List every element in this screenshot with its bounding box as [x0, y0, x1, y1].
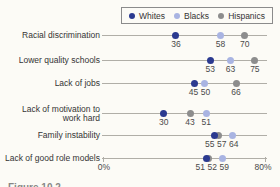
data-dot-blacks — [229, 132, 236, 139]
value-label-whites: 51 — [196, 162, 205, 172]
value-label-whites: 53 — [206, 64, 215, 74]
legend-item-whites: Whites — [129, 11, 165, 21]
value-label-whites: 45 — [189, 87, 198, 97]
hispanics-dot-icon — [218, 13, 224, 19]
data-dot-whites — [207, 57, 214, 64]
value-label-hispanics: 70 — [240, 39, 249, 49]
value-label-blacks: 63 — [226, 64, 235, 74]
legend-item-blacks: Blacks — [174, 11, 209, 21]
legend-label-hispanics: Hispanics — [228, 11, 265, 21]
data-dot-whites — [191, 80, 198, 87]
category-line — [102, 83, 267, 84]
value-label-blacks: 59 — [220, 162, 229, 172]
category-label-line: Lack of good role models — [5, 154, 100, 164]
data-dot-whites — [172, 32, 179, 39]
category-label: Racial discrimination — [22, 31, 100, 41]
x-axis-max-label: 80% — [254, 162, 271, 172]
data-dot-hispanics — [251, 57, 258, 64]
category-line — [102, 158, 267, 159]
value-label-hispanics: 52 — [208, 162, 217, 172]
data-dot-blacks — [219, 155, 226, 162]
value-label-hispanics: 57 — [217, 139, 226, 149]
category-label-line: Racial discrimination — [22, 31, 100, 41]
category-label-line: Lower quality schools — [19, 56, 100, 66]
category-label: Lack of good role models — [5, 154, 100, 164]
data-dot-whites — [203, 155, 210, 162]
value-label-hispanics: 43 — [185, 117, 194, 127]
x-axis-min-label: 0% — [98, 162, 110, 172]
data-dot-hispanics — [241, 32, 248, 39]
figure-caption: Figure 10.2 — [8, 182, 61, 187]
value-label-hispanics: 66 — [231, 87, 240, 97]
data-dot-whites — [160, 110, 167, 117]
category-line — [102, 135, 267, 136]
value-label-whites: 36 — [171, 39, 180, 49]
data-dot-hispanics — [187, 110, 194, 117]
data-dot-whites — [211, 132, 218, 139]
whites-dot-icon — [129, 13, 135, 19]
blacks-dot-icon — [174, 13, 180, 19]
value-label-hispanics: 75 — [250, 64, 259, 74]
category-label: Lower quality schools — [19, 56, 100, 66]
value-label-blacks: 51 — [202, 117, 211, 127]
data-dot-blacks — [203, 110, 210, 117]
category-label-line: Lack of jobs — [55, 79, 100, 89]
category-label: Lack of jobs — [55, 79, 100, 89]
legend-item-hispanics: Hispanics — [218, 11, 265, 21]
value-label-whites: 55 — [205, 139, 214, 149]
legend: Whites Blacks Hispanics — [121, 7, 273, 24]
category-label-line: work hard — [22, 114, 100, 124]
legend-label-blacks: Blacks — [184, 11, 209, 21]
value-label-whites: 30 — [159, 117, 168, 127]
data-dot-hispanics — [233, 80, 240, 87]
category-label-line: Family instability — [38, 131, 100, 141]
data-dot-blacks — [227, 57, 234, 64]
value-label-blacks: 64 — [229, 139, 238, 149]
category-line — [102, 60, 267, 61]
legend-label-whites: Whites — [139, 11, 165, 21]
category-label: Lack of motivation towork hard — [22, 104, 100, 123]
data-dot-blacks — [201, 80, 208, 87]
data-dot-blacks — [217, 32, 224, 39]
category-line — [102, 113, 267, 114]
category-label: Family instability — [38, 131, 100, 141]
value-label-blacks: 50 — [201, 87, 210, 97]
dot-plot-figure: Whites Blacks Hispanics Racial discrimin… — [0, 0, 280, 187]
value-label-blacks: 58 — [216, 39, 225, 49]
